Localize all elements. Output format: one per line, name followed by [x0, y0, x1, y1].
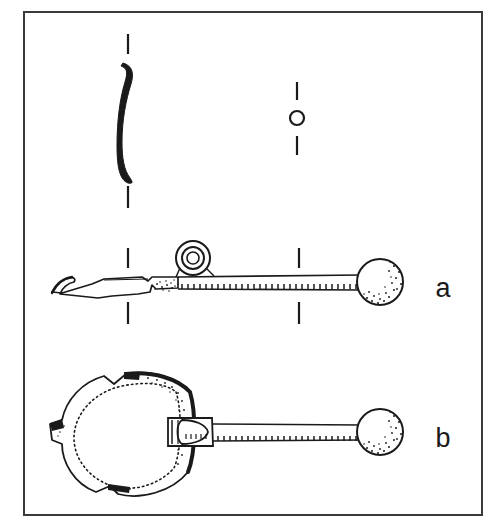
artifact-b-terminal-knob — [357, 409, 403, 455]
artifact-b-handle-collar — [168, 418, 213, 446]
artifact-a-handle — [178, 275, 361, 290]
artifact-illustration-canvas: a b — [0, 0, 498, 532]
bowl-profile-section — [117, 63, 132, 183]
artifact-b-handle — [213, 424, 361, 441]
artifact-b — [50, 372, 403, 496]
figure-plate: a b — [0, 0, 498, 532]
artifact-label-b: b — [435, 423, 450, 453]
artifact-a-terminal-knob — [357, 259, 403, 305]
artifact-label-a: a — [435, 273, 451, 303]
artifact-a-suspension-ring — [176, 241, 214, 277]
artifact-a-bowl — [52, 277, 179, 298]
handle-section-circle — [290, 111, 304, 125]
artifact-a — [52, 241, 403, 305]
